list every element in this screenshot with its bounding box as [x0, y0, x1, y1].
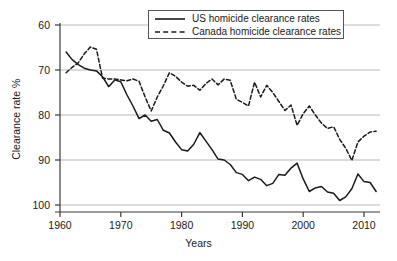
axis-lines-group [55, 23, 380, 212]
y-tick-label-60: 100 [18, 200, 50, 211]
x-tick-label-2010: 2010 [339, 220, 389, 231]
x-tick-label-1970: 1970 [96, 220, 146, 231]
y-tick-label-100: 60 [18, 20, 50, 31]
x-tick-label-1980: 1980 [157, 220, 207, 231]
gridlines-group [60, 25, 380, 205]
legend-label-us: US homicide clearance rates [192, 14, 320, 24]
x-axis-title: Years [0, 238, 397, 249]
x-tick-label-2000: 2000 [278, 220, 328, 231]
tickmarks-group [55, 25, 364, 217]
series-line-canada [66, 47, 376, 160]
series-line-us [66, 52, 376, 201]
y-axis-title: Clearance rate % [11, 64, 22, 174]
y-tick-label-90: 70 [18, 65, 50, 76]
x-tick-label-1990: 1990 [217, 220, 267, 231]
legend-label-canada: Canada homicide clearance rates [192, 27, 341, 37]
legend-entry-us: US homicide clearance rates [154, 12, 320, 25]
legend-swatch-solid-icon [154, 14, 186, 24]
chart-legend: US homicide clearance rates Canada homic… [148, 10, 344, 39]
legend-swatch-dashed-icon [154, 27, 186, 37]
y-tick-label-70: 90 [18, 155, 50, 166]
chart-container: 10090807060 196019701980199020002010 Cle… [0, 0, 397, 261]
legend-entry-canada: Canada homicide clearance rates [154, 25, 341, 38]
y-tick-label-80: 80 [18, 110, 50, 121]
x-tick-label-1960: 1960 [35, 220, 85, 231]
